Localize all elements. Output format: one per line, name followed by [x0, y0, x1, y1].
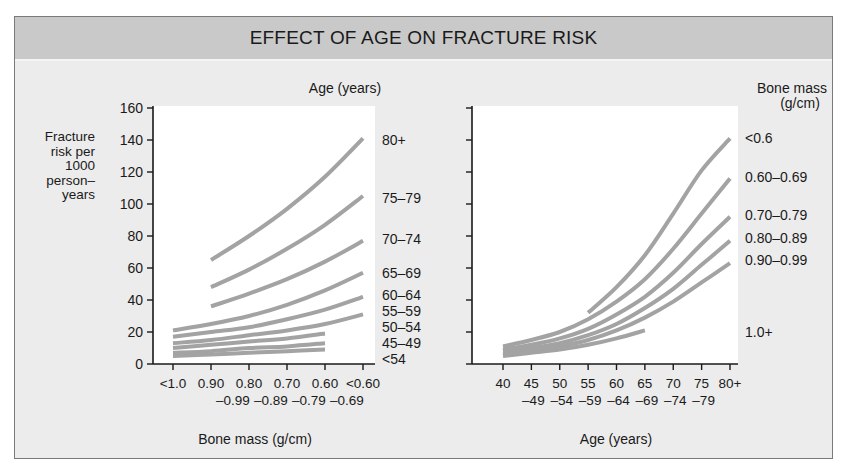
y-axis-title: 1000 [65, 158, 95, 173]
x-tick-label-range: –0.79 [292, 393, 326, 408]
y-tick-label: 40 [127, 292, 143, 308]
series-label: 65–69 [382, 265, 421, 281]
x-tick-label: 60 [609, 376, 624, 391]
y-tick-label: 100 [120, 196, 144, 212]
x-tick-label-range: –64 [607, 393, 630, 408]
x-tick-label: 80+ [719, 376, 742, 391]
x-axis-title: Bone mass (g/cm) [198, 431, 312, 447]
series-label: 75–79 [382, 190, 421, 206]
x-tick-label-range: –0.69 [330, 393, 364, 408]
x-tick-label-range: –0.89 [254, 393, 288, 408]
series-label: 80+ [382, 132, 406, 148]
y-tick-label: 20 [127, 324, 143, 340]
y-axis-title: risk per [51, 144, 96, 159]
y-tick-label: 80 [127, 228, 143, 244]
series-label: 60–64 [382, 287, 421, 303]
y-axis-title: Fracture [45, 129, 95, 144]
x-tick-label: 0.90 [198, 376, 224, 391]
series-label: 0.90–0.99 [745, 252, 807, 268]
charts-canvas: 020406080100120140160<1.00.90–0.990.80–0… [0, 0, 855, 474]
series-label: 0.80–0.89 [745, 230, 807, 246]
x-tick-label: 45 [524, 376, 539, 391]
y-axis-title: person– [46, 173, 95, 188]
series-label: 45–49 [382, 335, 421, 351]
x-tick-label-range: –54 [550, 393, 573, 408]
series-label: 50–54 [382, 319, 421, 335]
x-tick-label: 70 [666, 376, 681, 391]
series-label: 0.60–0.69 [745, 169, 807, 185]
x-tick-label: 0.80 [236, 376, 262, 391]
plot-area [472, 106, 738, 364]
legend-title: (g/cm) [780, 95, 820, 111]
chart-fracture-risk-by-age: 4045–4950–5455–5960–6465–6970–7475–7980+… [466, 80, 827, 447]
x-tick-label: 75 [694, 376, 709, 391]
series-label: 70–74 [382, 231, 421, 247]
chart-fracture-risk-by-bone-mass: 020406080100120140160<1.00.90–0.990.80–0… [45, 80, 421, 447]
x-tick-label: <0.60 [346, 376, 380, 391]
x-tick-label: 55 [581, 376, 596, 391]
x-tick-label-range: –79 [692, 393, 715, 408]
x-axis-title: Age (years) [580, 431, 652, 447]
x-tick-label: 0.60 [312, 376, 338, 391]
series-label: <0.6 [745, 130, 773, 146]
series-label: 0.70–0.79 [745, 207, 807, 223]
legend-title: Age (years) [309, 80, 381, 96]
x-tick-label-range: –49 [522, 393, 545, 408]
y-tick-label: 0 [135, 356, 143, 372]
x-tick-label: <1.0 [160, 376, 187, 391]
legend-title: Bone mass [757, 80, 827, 96]
y-tick-label: 140 [120, 132, 144, 148]
x-tick-label: 0.70 [274, 376, 300, 391]
x-tick-label-range: –59 [579, 393, 602, 408]
x-tick-label: 40 [495, 376, 510, 391]
y-tick-label: 160 [120, 100, 144, 116]
series-label: <54 [382, 351, 406, 367]
series-label: 55–59 [382, 303, 421, 319]
x-tick-label-range: –69 [636, 393, 659, 408]
y-tick-label: 60 [127, 260, 143, 276]
series-label: 1.0+ [745, 324, 773, 340]
y-tick-label: 120 [120, 164, 144, 180]
y-axis-title: years [62, 187, 95, 202]
x-tick-label-range: –0.99 [216, 393, 250, 408]
x-tick-label: 50 [552, 376, 567, 391]
x-tick-label-range: –74 [664, 393, 687, 408]
x-tick-label: 65 [637, 376, 652, 391]
